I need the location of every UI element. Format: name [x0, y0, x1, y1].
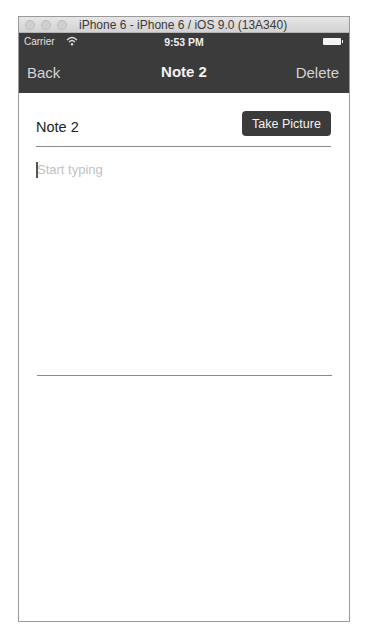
- navigation-bar: Back Note 2 Delete: [19, 53, 349, 93]
- body-divider: [37, 375, 332, 376]
- status-bar: Carrier 9:53 PM: [19, 33, 349, 53]
- simulator-title-bar: iPhone 6 - iPhone 6 / iOS 9.0 (13A340): [19, 17, 349, 33]
- window-title: iPhone 6 - iPhone 6 / iOS 9.0 (13A340): [79, 18, 349, 32]
- status-time: 9:53 PM: [19, 36, 349, 48]
- title-divider: [36, 146, 331, 147]
- note-body-textarea[interactable]: [36, 161, 331, 371]
- delete-button[interactable]: Delete: [296, 64, 339, 81]
- minimize-window-icon[interactable]: [41, 20, 51, 30]
- take-picture-button[interactable]: Take Picture: [242, 111, 331, 136]
- text-cursor: [36, 162, 38, 178]
- zoom-window-icon[interactable]: [57, 20, 67, 30]
- close-window-icon[interactable]: [25, 20, 35, 30]
- note-title-field[interactable]: [36, 119, 236, 135]
- simulator-window: iPhone 6 - iPhone 6 / iOS 9.0 (13A340) C…: [18, 16, 350, 622]
- note-editor: Take Picture Start typing: [19, 93, 349, 621]
- battery-icon: [323, 38, 341, 45]
